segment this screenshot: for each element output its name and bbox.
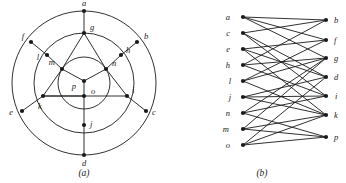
panel-b-right-label-f: f [334, 35, 338, 45]
panel-a-label-n: n [112, 58, 116, 68]
panel-b-left-node-h[interactable] [241, 63, 245, 67]
panel-b-edge-j-i [243, 96, 326, 97]
panel-a-node-n[interactable] [104, 67, 108, 71]
panel-b-right-node-f[interactable] [324, 38, 328, 42]
panel-a-node-j[interactable] [82, 123, 86, 127]
panel-a-label-b: b [144, 31, 148, 41]
figure-svg: abcdefghijklmnpo acehljnmobfgdikp (a) (b… [0, 0, 346, 183]
panel-b-left-node-c[interactable] [241, 31, 245, 35]
panel-b-edge-j-k [243, 97, 326, 115]
panel-b-right-label-p: p [333, 132, 338, 142]
panel-b-left-node-l[interactable] [241, 79, 245, 83]
panel-a-node-k[interactable] [41, 94, 45, 98]
panel-b-right-label-k: k [334, 110, 338, 120]
panel-a-node-d[interactable] [82, 153, 86, 157]
panel-b-left-label-n: n [226, 108, 230, 118]
panel-a-label-o: o [91, 86, 95, 96]
panel-a-label-d: d [82, 158, 87, 168]
panel-a-node-i[interactable] [125, 94, 129, 98]
panel-b-right-node-g[interactable] [324, 56, 328, 60]
panel-b-right-label-d: d [334, 72, 339, 82]
panel-a-node-m[interactable] [60, 67, 64, 71]
panel-b-left-node-n[interactable] [241, 111, 245, 115]
panel-a-edge-i-n [106, 69, 127, 96]
panel-b-edge-a-g [243, 17, 326, 58]
panel-a: abcdefghijklmnpo [9, 0, 156, 168]
panel-b-right-label-b: b [334, 15, 338, 25]
figure-container: abcdefghijklmnpo acehljnmobfgdikp (a) (b… [0, 0, 346, 183]
panel-b-left-node-a[interactable] [241, 15, 245, 19]
panel-b-left-label-o: o [226, 140, 230, 150]
panel-a-label-a: a [82, 0, 86, 8]
panel-b-right-label-g: g [334, 53, 338, 63]
panel-b-edge-m-g [243, 58, 326, 129]
panel-b-edge-a-b [243, 17, 326, 20]
panel-b-edge-m-k [243, 115, 326, 129]
panel-b-edge-c-d [243, 33, 326, 77]
panel-b: acehljnmobfgdikp [223, 12, 339, 150]
panel-b-right-node-k[interactable] [324, 113, 328, 117]
panel-a-node-p[interactable] [82, 79, 86, 83]
panel-b-left-label-m: m [223, 124, 229, 134]
panel-b-edge-l-f [243, 40, 326, 81]
panel-b-edge-e-d [243, 49, 326, 77]
panel-b-right-node-i[interactable] [324, 94, 328, 98]
panel-b-right-node-b[interactable] [324, 18, 328, 22]
panel-b-edge-e-f [243, 40, 326, 49]
panel-a-node-h[interactable] [119, 53, 123, 57]
panel-a-edge-g-m [62, 33, 84, 69]
panel-b-right-label-i: i [335, 91, 338, 101]
panel-b-right-node-p[interactable] [324, 135, 328, 139]
panel-a-label-h: h [126, 45, 130, 55]
panel-b-left-node-o[interactable] [241, 143, 245, 147]
panel-b-right-node-d[interactable] [324, 75, 328, 79]
panel-b-left-label-j: j [228, 92, 232, 102]
panel-b-left-label-e: e [226, 44, 230, 54]
panel-a-edge-m-p [62, 69, 84, 81]
panel-a-label-i: i [132, 85, 135, 95]
panel-a-label-m: m [49, 57, 55, 67]
panel-b-left-node-j[interactable] [241, 95, 245, 99]
panel-a-node-e[interactable] [20, 109, 24, 113]
panel-b-left-node-e[interactable] [241, 47, 245, 51]
panel-a-node-f[interactable] [29, 40, 33, 44]
panel-b-left-label-a: a [226, 12, 230, 22]
caption-panel-a: (a) [78, 168, 89, 179]
panel-b-left-label-l: l [229, 76, 232, 86]
panel-a-label-j: j [89, 119, 93, 129]
panel-b-left-node-m[interactable] [241, 127, 245, 131]
caption-panel-b: (b) [256, 168, 267, 179]
panel-a-label-c: c [152, 107, 156, 117]
panel-b-left-label-c: c [226, 28, 230, 38]
panel-a-label-p: p [71, 81, 76, 91]
panel-a-node-b[interactable] [135, 40, 139, 44]
panel-a-edge-g-n [84, 33, 106, 69]
panel-b-edge-o-p [243, 137, 326, 145]
panel-a-label-k: k [38, 101, 42, 111]
panel-a-node-a[interactable] [82, 9, 86, 13]
panel-b-left-label-h: h [226, 60, 230, 70]
panel-a-label-e: e [9, 107, 13, 117]
panel-b-edge-a-f [243, 17, 326, 40]
panel-a-node-o[interactable] [82, 94, 86, 98]
panel-a-edge-n-p [84, 69, 106, 81]
panel-a-label-f: f [22, 31, 26, 41]
panel-a-label-g: g [90, 22, 94, 32]
panel-a-node-g[interactable] [82, 31, 86, 35]
panel-a-node-c[interactable] [144, 109, 148, 113]
